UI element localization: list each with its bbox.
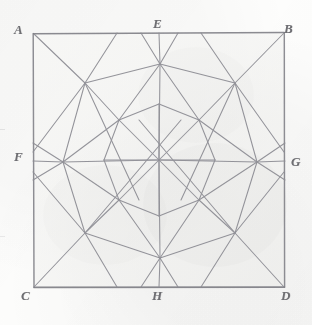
stray-pencil-mark-upper — [0, 129, 5, 130]
label-corner-c: C — [21, 289, 30, 302]
sketch-page: A B C D E F G H — [0, 0, 312, 325]
label-midpoint-f: F — [14, 150, 23, 163]
label-midpoint-g: G — [291, 155, 301, 168]
label-midpoint-h: H — [152, 289, 162, 302]
label-corner-a: A — [14, 23, 23, 36]
label-midpoint-e: E — [153, 17, 162, 30]
geometric-figure — [0, 0, 312, 325]
label-corner-b: B — [284, 22, 293, 35]
stray-pencil-mark-lower — [0, 236, 5, 237]
label-corner-d: D — [281, 289, 291, 302]
